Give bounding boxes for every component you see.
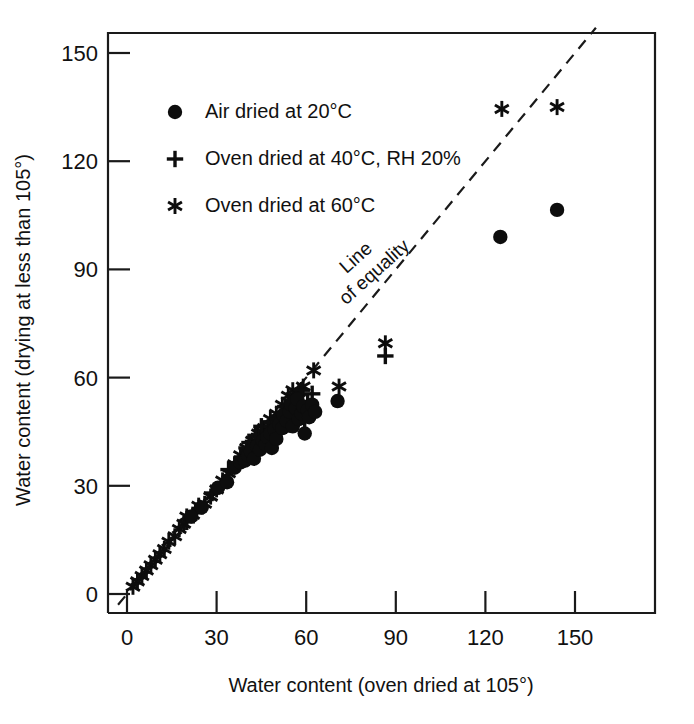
legend-item-1: Oven dried at 40°C, RH 20% bbox=[167, 147, 461, 169]
legend-item-2: Oven dried at 60°C bbox=[168, 194, 375, 216]
y-axis-tick-labels: 0306090120150 bbox=[61, 41, 98, 607]
data-point-plus bbox=[377, 348, 393, 364]
y-axis-ticks bbox=[108, 53, 130, 594]
data-point-asterisk bbox=[332, 379, 346, 395]
x-tick-label-120: 120 bbox=[467, 625, 504, 650]
data-point-circle bbox=[194, 500, 208, 514]
data-point-asterisk bbox=[550, 99, 564, 115]
x-tick-label-0: 0 bbox=[121, 625, 133, 650]
data-point-circle bbox=[298, 426, 312, 440]
data-point-circle bbox=[550, 203, 564, 217]
chart-legend: Air dried at 20°COven dried at 40°C, RH … bbox=[167, 100, 461, 216]
y-tick-label-0: 0 bbox=[86, 582, 98, 607]
x-tick-label-30: 30 bbox=[204, 625, 228, 650]
x-axis-tick-labels: 0306090120150 bbox=[121, 625, 593, 650]
y-tick-label-120: 120 bbox=[61, 149, 98, 174]
legend-label-1: Oven dried at 40°C, RH 20% bbox=[205, 147, 461, 169]
data-point-circle bbox=[493, 230, 507, 244]
data-point-asterisk bbox=[307, 362, 321, 378]
data-series-circle bbox=[184, 203, 564, 524]
legend-label-0: Air dried at 20°C bbox=[205, 100, 352, 122]
data-point-asterisk bbox=[495, 101, 509, 117]
y-axis-title: Water content (drying at less than 105°) bbox=[12, 154, 34, 506]
line-of-equality-annotation: Lineof equality bbox=[319, 218, 413, 309]
legend-label-2: Oven dried at 60°C bbox=[205, 194, 375, 216]
y-tick-label-90: 90 bbox=[74, 257, 98, 282]
y-tick-label-30: 30 bbox=[74, 474, 98, 499]
data-point-circle bbox=[308, 405, 322, 419]
x-tick-label-150: 150 bbox=[557, 625, 594, 650]
data-point-circle bbox=[330, 394, 344, 408]
y-tick-label-60: 60 bbox=[74, 366, 98, 391]
data-point-circle bbox=[168, 105, 182, 119]
plot-canvas: 0306090120150 0306090120150 Lineof equal… bbox=[0, 0, 694, 724]
data-point-circle bbox=[220, 475, 234, 489]
x-tick-label-60: 60 bbox=[294, 625, 318, 650]
y-tick-label-150: 150 bbox=[61, 41, 98, 66]
x-tick-label-90: 90 bbox=[384, 625, 408, 650]
legend-marker-plus bbox=[167, 151, 183, 167]
scatter-chart-figure: 0306090120150 0306090120150 Lineof equal… bbox=[0, 0, 694, 724]
data-point-plus bbox=[167, 151, 183, 167]
legend-marker-asterisk bbox=[168, 198, 182, 214]
x-axis-ticks bbox=[127, 591, 575, 613]
equality-label: Lineof equality bbox=[319, 218, 413, 309]
legend-marker-circle bbox=[168, 105, 182, 119]
legend-item-0: Air dried at 20°C bbox=[168, 100, 352, 122]
x-axis-title: Water content (oven dried at 105°) bbox=[228, 674, 533, 696]
data-point-asterisk bbox=[168, 198, 182, 214]
